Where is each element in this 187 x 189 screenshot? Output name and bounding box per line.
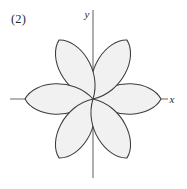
rose-curve-plot: x y [0, 0, 187, 189]
polar-rose-figure: (2) x y [0, 0, 187, 189]
x-axis-label: x [169, 93, 175, 105]
y-axis-label: y [84, 8, 90, 20]
